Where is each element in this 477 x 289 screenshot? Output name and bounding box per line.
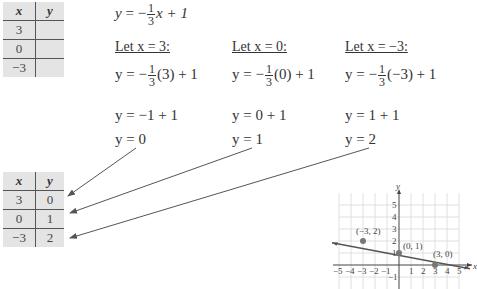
arrow-1 [68, 148, 136, 196]
coordinate-graph: x y −5 −4 −3 −2 −1 1 2 3 4 5 5 4 3 2 1 −… [330, 185, 477, 289]
point-neg3-2 [360, 238, 366, 244]
arrow-2 [70, 148, 252, 213]
x-tick: −3 [357, 266, 367, 276]
x-axis-label: x [472, 261, 477, 271]
y-axis-label: y [395, 185, 400, 191]
x-tick: 2 [421, 266, 426, 276]
y-tick: −1 [388, 272, 398, 282]
x-tick: −2 [369, 266, 379, 276]
point-label: (3, 0) [433, 249, 453, 259]
y-tick: 3 [392, 224, 397, 234]
y-tick: 5 [392, 200, 397, 210]
point-label: (0, 1) [403, 241, 423, 251]
x-tick: −5 [333, 266, 343, 276]
x-tick: 4 [445, 266, 450, 276]
x-tick: 1 [409, 266, 414, 276]
y-tick: 1 [392, 248, 397, 258]
x-tick: −4 [345, 266, 355, 276]
arrow-3 [70, 148, 369, 238]
y-tick: 2 [392, 236, 397, 246]
y-tick: 4 [392, 212, 397, 222]
point-label: (−3, 2) [356, 226, 381, 236]
point-3-0 [432, 262, 438, 268]
point-0-1 [396, 250, 402, 256]
